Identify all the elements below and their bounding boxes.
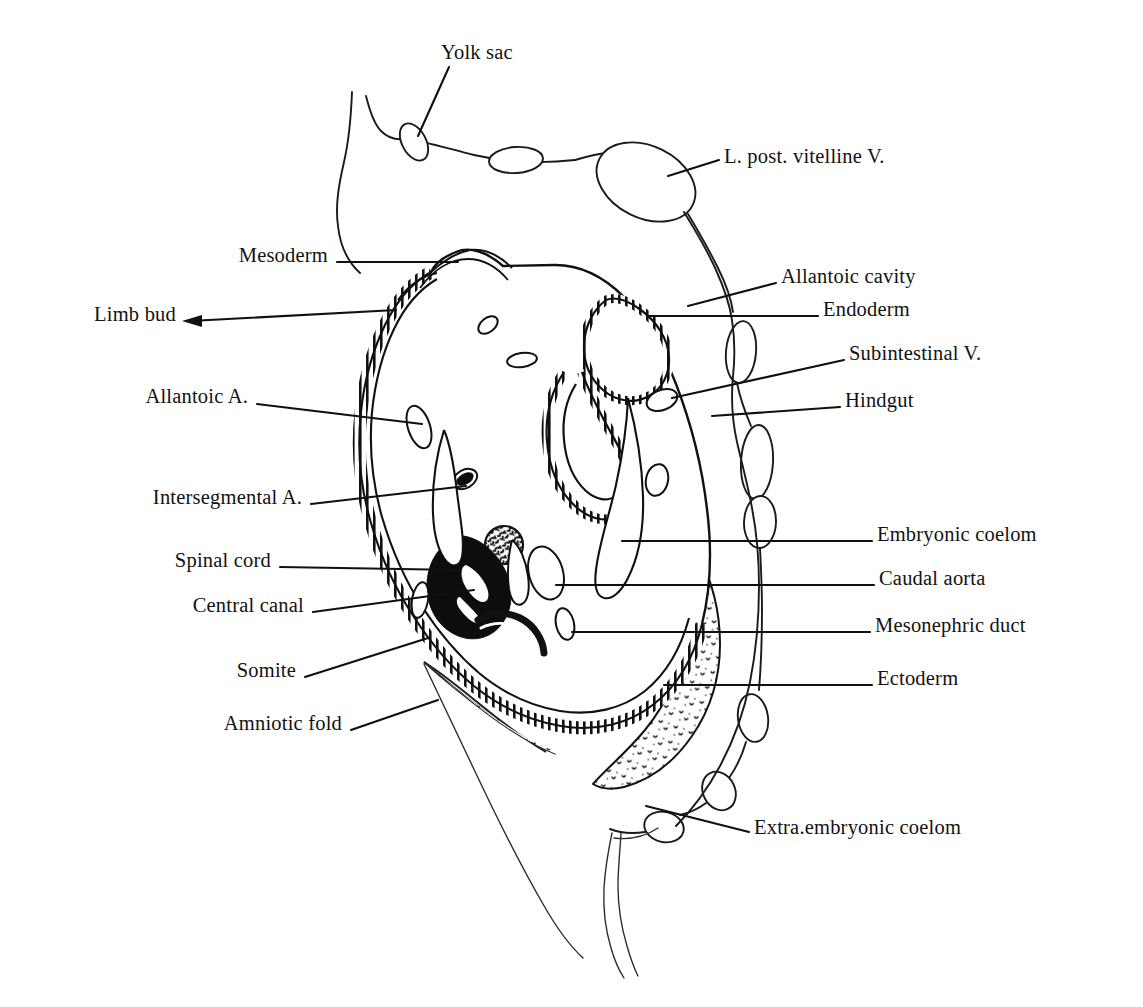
label-allantoic-a: Allantoic A. <box>0 386 248 407</box>
leader-yolk-sac <box>418 67 449 136</box>
label-extra-embryonic-coelom: Extra.embryonic coelom <box>754 817 961 838</box>
leader-limb-bud <box>190 310 396 321</box>
yolk-sac-vesicle <box>394 119 434 166</box>
label-limb-bud: Limb bud <box>0 304 176 325</box>
label-central-canal: Central canal <box>0 595 304 616</box>
label-hindgut: Hindgut <box>845 390 914 411</box>
yolk-sac-membrane <box>337 92 608 273</box>
label-mesonephric-duct: Mesonephric duct <box>875 615 1026 636</box>
leader-somite <box>305 638 428 677</box>
label-intersegmental-a: Intersegmental A. <box>0 487 302 508</box>
label-yolk-sac: Yolk sac <box>441 42 513 63</box>
vitelline-vesicle-small <box>488 145 544 175</box>
label-subintestinal-v: Subintestinal V. <box>849 343 981 364</box>
lower-outer-membrane <box>604 828 658 978</box>
embryo-section-figure: Yolk sac L. post. vitelline V. Mesoderm … <box>0 0 1143 1007</box>
label-mesoderm: Mesoderm <box>0 245 328 266</box>
label-l-post-vitelline-v: L. post. vitelline V. <box>724 146 885 167</box>
label-ectoderm: Ectoderm <box>877 668 958 689</box>
label-caudal-aorta: Caudal aorta <box>879 568 986 589</box>
label-embryonic-coelom: Embryonic coelom <box>877 524 1037 545</box>
label-allantoic-cavity: Allantoic cavity <box>781 266 916 287</box>
leader-subintestinal-v <box>672 360 844 398</box>
label-amniotic-fold: Amniotic fold <box>0 713 342 734</box>
leader-hindgut <box>712 407 840 416</box>
limb-bud-arrowhead <box>182 315 202 327</box>
label-endoderm: Endoderm <box>823 299 910 320</box>
leader-amniotic-fold <box>351 700 438 730</box>
label-spinal-cord: Spinal cord <box>0 550 271 571</box>
allantoic-cavity <box>584 299 669 401</box>
label-somite: Somite <box>0 660 296 681</box>
